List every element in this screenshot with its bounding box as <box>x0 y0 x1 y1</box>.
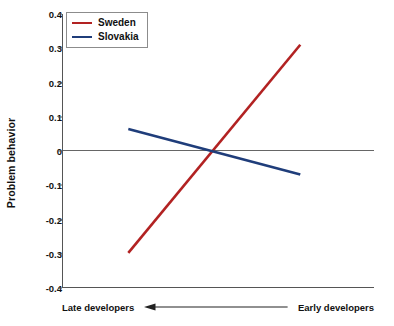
x-axis-left-label: Late developers <box>62 302 134 313</box>
x-axis-right-label: Early developers <box>298 302 374 313</box>
legend-label-slovakia: Slovakia <box>98 32 139 42</box>
left-arrow-icon <box>144 301 288 313</box>
legend-item-slovakia: Slovakia <box>72 30 139 44</box>
series-line-sweden <box>128 45 300 253</box>
y-axis-title: Problem behavior <box>0 0 22 326</box>
y-tick-label: -0.4 <box>28 283 62 294</box>
y-tick-label: 0.4 <box>28 9 62 20</box>
y-tick-label: 0 <box>28 146 62 157</box>
y-tick-label: 0.2 <box>28 77 62 88</box>
y-axis-tick-labels: 0.40.30.20.10-0.1-0.2-0.3-0.4 <box>20 0 62 326</box>
x-axis-annotation: Late developers Early developers <box>62 297 374 317</box>
y-tick-label: -0.3 <box>28 248 62 259</box>
y-tick-label: -0.1 <box>28 180 62 191</box>
plot-area <box>62 14 374 288</box>
line-chart: Problem behavior 0.40.30.20.10-0.1-0.2-0… <box>0 0 394 326</box>
y-tick-label: -0.2 <box>28 214 62 225</box>
legend-item-sweden: Sweden <box>72 16 139 30</box>
y-tick-label: 0.3 <box>28 43 62 54</box>
legend-swatch-sweden <box>72 22 92 25</box>
series-line-slovakia <box>128 129 300 174</box>
legend-swatch-slovakia <box>72 36 92 39</box>
legend-label-sweden: Sweden <box>98 18 136 28</box>
chart-legend: Sweden Slovakia <box>66 12 148 48</box>
plot-lines <box>63 14 374 287</box>
y-tick-label: 0.1 <box>28 111 62 122</box>
